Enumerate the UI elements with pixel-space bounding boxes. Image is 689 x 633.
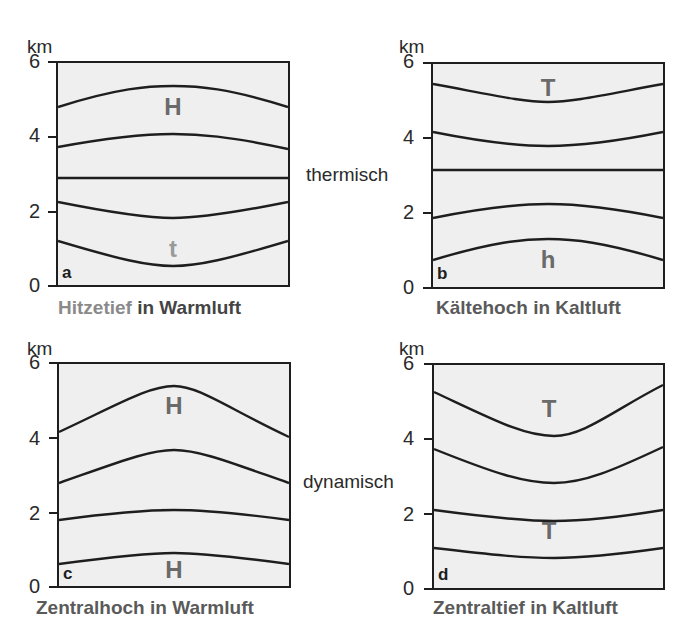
y-tick-4: 4 [398,427,414,450]
caption-context: in Warmluft [132,297,241,318]
y-tick-6: 6 [24,50,40,73]
high-label: h [541,246,556,274]
y-tick-6: 6 [398,352,414,375]
panel-letter: a [62,263,71,283]
y-tick-2: 2 [24,502,40,525]
diagram-box: T h b [431,62,665,289]
caption-context: in Kaltluft [525,597,618,618]
y-tick-0: 0 [24,575,40,598]
panel-caption: Zentraltief in Kaltluft [433,597,618,619]
low-label: t [169,235,177,263]
y-tick-6: 6 [398,50,414,73]
panel-letter: c [63,564,72,584]
panel-caption: Hitzetief in Warmluft [58,297,241,319]
high-label: H [164,93,181,121]
caption-term: Kältehoch [436,297,528,318]
low-label: T [542,517,557,545]
low-label: T [542,395,557,423]
caption-term: Zentraltief [433,597,525,618]
y-tick-4: 4 [24,427,40,450]
y-tick-2: 2 [398,201,414,224]
high-label: H [165,392,182,420]
low-label: T [541,74,556,102]
diagram-box: H t a [56,61,290,287]
panel-letter: d [438,565,448,585]
y-tick-4: 4 [24,124,40,147]
caption-term: Zentralhoch [36,597,145,618]
y-tick-0: 0 [398,577,414,600]
y-tick-2: 2 [398,503,414,526]
y-tick-0: 0 [24,274,40,297]
y-tick-4: 4 [398,126,414,149]
panel-caption: Kältehoch in Kaltluft [436,297,621,319]
high-label: H [165,556,182,584]
diagram-box: H H c [57,362,291,588]
y-tick-0: 0 [398,276,414,299]
caption-term: Hitzetief [58,297,132,318]
y-tick-6: 6 [24,351,40,374]
row-label-thermisch: thermisch [306,164,388,186]
caption-context: in Kaltluft [528,297,621,318]
row-label-dynamisch: dynamisch [303,471,394,493]
caption-context: in Warmluft [145,597,254,618]
diagram-box: T T d [432,363,665,590]
panel-letter: b [437,264,447,284]
panel-caption: Zentralhoch in Warmluft [36,597,254,619]
y-tick-2: 2 [24,200,40,223]
